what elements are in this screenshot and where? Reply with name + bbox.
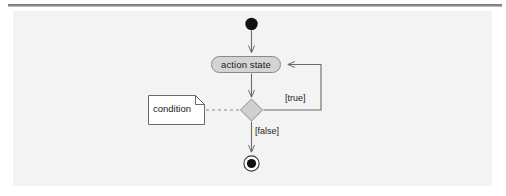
decision-node xyxy=(241,99,263,121)
guard-label-false: [false] xyxy=(255,127,279,136)
condition-note: condition xyxy=(148,95,205,125)
action-state-label: action state xyxy=(221,60,271,70)
initial-node xyxy=(245,18,257,30)
action-state: action state xyxy=(211,56,281,73)
condition-note-label: condition xyxy=(153,104,191,114)
diagram-canvas xyxy=(0,0,506,196)
guard-label-true: [true] xyxy=(285,94,306,103)
final-node xyxy=(247,159,256,168)
figure-root: action state condition [true] [false] xyxy=(0,0,506,196)
